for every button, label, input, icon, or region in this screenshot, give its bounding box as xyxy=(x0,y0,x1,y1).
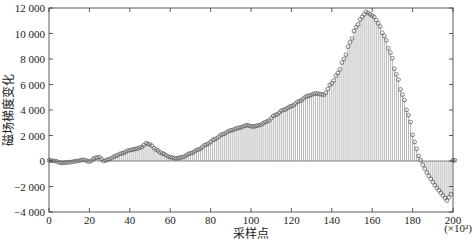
x-tick-label: 100 xyxy=(243,214,260,226)
x-tick-label: 160 xyxy=(364,214,381,226)
data-stems xyxy=(49,12,455,201)
x-axis-multiplier: (×10²) xyxy=(444,222,472,235)
x-tick-label: 180 xyxy=(404,214,421,226)
y-tick-label: 4 000 xyxy=(20,104,45,116)
x-tick-label: 20 xyxy=(84,214,96,226)
y-tick-label: 12 000 xyxy=(15,2,46,14)
y-tick-label: −2 000 xyxy=(14,181,45,193)
x-tick-label: 60 xyxy=(165,214,177,226)
data-markers xyxy=(47,10,457,203)
stem-chart: 020406080100120140160180200 −4 000−2 000… xyxy=(0,0,472,245)
y-tick-label: 0 xyxy=(40,155,46,167)
x-tick-label: 140 xyxy=(324,214,341,226)
x-tick-label: 0 xyxy=(46,214,52,226)
y-axis-label: 磁场梯度变化 xyxy=(1,74,16,146)
y-tick-label: 10 000 xyxy=(15,28,46,40)
y-tick-label: 8 000 xyxy=(20,53,45,65)
y-tick-label: 6 000 xyxy=(20,79,45,91)
x-tick-label: 40 xyxy=(124,214,136,226)
x-axis-ticks: 020406080100120140160180200 xyxy=(46,8,462,226)
y-tick-label: 2 000 xyxy=(20,130,45,142)
y-tick-label: −4 000 xyxy=(14,206,45,218)
y-axis-ticks: −4 000−2 00002 0004 0006 0008 00010 0001… xyxy=(14,2,453,218)
x-axis-label: 采样点 xyxy=(233,226,269,241)
x-tick-label: 120 xyxy=(283,214,300,226)
x-tick-label: 80 xyxy=(205,214,217,226)
